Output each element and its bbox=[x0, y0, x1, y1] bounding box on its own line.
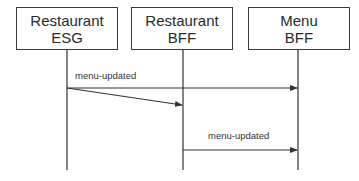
participant-restaurant-esg: Restaurant ESG bbox=[16, 7, 118, 50]
message-label: menu-updated bbox=[75, 70, 136, 81]
participant-menu-bff: Menu BFF bbox=[248, 7, 350, 50]
message-label: menu-updated bbox=[208, 130, 269, 141]
participant-restaurant-bff: Restaurant BFF bbox=[131, 7, 233, 50]
participant-label-line1: Restaurant bbox=[30, 12, 103, 29]
participant-label-line2: ESG bbox=[51, 29, 83, 46]
participant-label-line2: BFF bbox=[285, 29, 313, 46]
participant-label-line1: Menu bbox=[280, 12, 318, 29]
message-arrow-esg-to-restaurant-bff bbox=[67, 88, 182, 105]
participant-label-line2: BFF bbox=[168, 29, 196, 46]
participant-label-line1: Restaurant bbox=[145, 12, 218, 29]
